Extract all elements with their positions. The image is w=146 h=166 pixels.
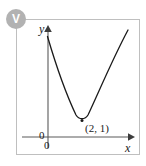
vertex-marker-dot (81, 119, 84, 122)
origin-label-below-axis: 0 (44, 139, 50, 151)
y-axis (44, 25, 52, 148)
vertex-point-label: (2, 1) (85, 122, 109, 134)
parabola-curve (48, 30, 129, 119)
figure-badge: V (6, 9, 26, 29)
x-axis-label: x (125, 141, 130, 156)
figure-container: V y x 0 0 (2, 1) (0, 0, 146, 166)
y-axis-label: y (39, 22, 44, 37)
